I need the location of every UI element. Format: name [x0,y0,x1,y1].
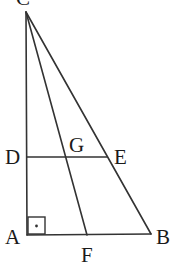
label-E: E [114,145,127,169]
label-B: B [156,225,170,249]
segment-CB [26,12,151,234]
right-angle-dot [35,225,38,228]
label-A: A [5,225,21,249]
label-C: C [16,0,30,10]
label-D: D [5,145,20,169]
segment-CF [26,12,87,235]
label-G: G [69,133,84,157]
geometry-diagram: C D G E A F B [0,0,182,267]
segment-CA [26,12,27,235]
label-F: F [81,243,93,267]
